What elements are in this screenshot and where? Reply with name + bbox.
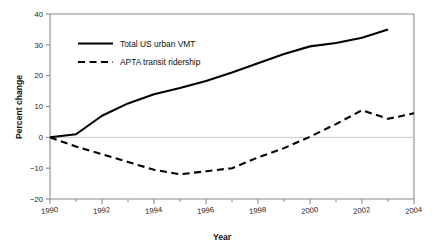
chart-figure: −20−10010203040 199019921994199619982000… <box>0 0 442 250</box>
y-tick-label-20: 20 <box>35 71 43 80</box>
y-tick-label-30: 30 <box>35 41 43 50</box>
y-tick-label--10: −10 <box>30 164 43 173</box>
legend-label-apta-transit-ridership: APTA transit ridership <box>120 57 201 67</box>
chart-background <box>0 0 442 250</box>
x-axis-title: Year <box>213 232 232 242</box>
y-tick-label-10: 10 <box>35 102 43 111</box>
y-tick-label-40: 40 <box>35 10 43 19</box>
y-axis-title: Percent change <box>14 75 24 139</box>
legend-label-total-us-urban-vmt: Total US urban VMT <box>120 39 195 49</box>
y-tick-label-0: 0 <box>39 133 43 142</box>
y-tick-label--20: −20 <box>30 195 43 204</box>
line-chart: −20−10010203040 199019921994199619982000… <box>0 0 442 250</box>
